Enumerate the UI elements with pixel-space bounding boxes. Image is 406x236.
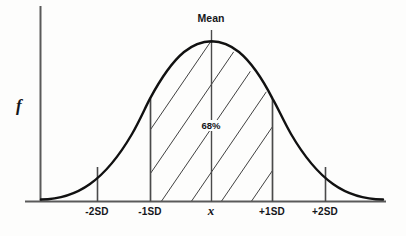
y-axis-label: f bbox=[16, 96, 22, 116]
region-percent-label: 68% bbox=[200, 120, 221, 131]
x-tick-label-minus-1sd: -1SD bbox=[138, 206, 162, 217]
x-tick-label-plus-1sd: +1SD bbox=[259, 206, 285, 217]
mean-label: Mean bbox=[198, 12, 225, 24]
x-tick-label-plus-2sd: +2SD bbox=[312, 206, 338, 217]
normal-distribution-figure: f Mean 68% -2SD -1SD x +1SD +2SD bbox=[0, 0, 406, 236]
distribution-plot bbox=[0, 0, 406, 236]
x-tick-label-mean-x: x bbox=[208, 203, 215, 219]
x-tick-label-minus-2sd: -2SD bbox=[85, 206, 109, 217]
